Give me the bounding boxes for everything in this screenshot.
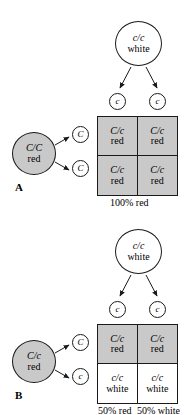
panel-a-top-gamete-left: c <box>109 93 126 110</box>
panel-b-cell-0: C/c red <box>98 325 138 364</box>
panel-a-cell-2-genotype: C/c <box>110 165 124 176</box>
panel-a-punnett-square: C/c red C/c red C/c red C/c red <box>97 116 178 196</box>
panel-b-left-parent-genotype: C/c <box>27 351 41 362</box>
panel-a-cell-3-phenotype: red <box>151 176 164 187</box>
panel-a: c/c white c c C/C red C C C/c red C/c re… <box>0 0 193 207</box>
panel-b-top-gamete-left: c <box>109 301 126 318</box>
panel-b-left-parent-circle: C/c red <box>12 340 56 383</box>
panel-b-left-gamete-upper-allele: C <box>77 338 83 347</box>
panel-a-left-gamete-lower-allele: C <box>77 164 83 173</box>
panel-a-left-parent-circle: C/C red <box>12 132 56 175</box>
panel-b-top-parent-phenotype: white <box>127 252 149 263</box>
panel-b-cell-2-phenotype: white <box>106 384 128 395</box>
panel-a-cell-0-phenotype: red <box>111 136 124 147</box>
panel-b-top-gamete-right-allele: c <box>156 305 160 314</box>
panel-a-left-gamete-upper-allele: C <box>77 130 83 139</box>
panel-b-left-gamete-upper: C <box>72 334 89 351</box>
panel-b-result-red: 50% red <box>98 405 132 415</box>
panel-a-top-parent-phenotype: white <box>127 44 149 55</box>
panel-a-result: 100% red <box>110 197 149 208</box>
panel-b: c/c white c c C/c red C c C/c red C/c re… <box>0 208 193 415</box>
panel-b-result-white: 50% white <box>137 405 180 415</box>
panel-b-top-gamete-right: c <box>149 301 166 318</box>
panel-a-left-gamete-lower: C <box>72 160 89 177</box>
panel-a-top-gamete-left-allele: c <box>116 97 120 106</box>
panel-b-letter: B <box>15 389 22 401</box>
panel-a-top-parent-circle: c/c white <box>115 21 162 66</box>
panel-b-cell-1: C/c red <box>138 325 178 364</box>
panel-b-cell-0-phenotype: red <box>111 344 124 355</box>
panel-b-punnett-square: C/c red C/c red c/c white c/c white <box>97 324 178 404</box>
panel-a-cell-2: C/c red <box>98 156 138 195</box>
panel-a-top-gamete-right-allele: c <box>156 97 160 106</box>
panel-b-cell-2-genotype: c/c <box>111 373 123 384</box>
panel-b-cell-1-phenotype: red <box>151 344 164 355</box>
panel-b-top-parent-genotype: c/c <box>133 241 145 252</box>
panel-b-cell-3: c/c white <box>138 364 178 403</box>
panel-b-top-parent-circle: c/c white <box>115 229 162 274</box>
panel-b-left-parent-phenotype: red <box>28 362 41 373</box>
panel-a-cell-1: C/c red <box>138 117 178 156</box>
panel-a-cell-1-phenotype: red <box>151 136 164 147</box>
panel-a-left-parent-phenotype: red <box>28 154 41 165</box>
panel-a-cell-0: C/c red <box>98 117 138 156</box>
panel-a-letter: A <box>15 181 23 193</box>
panel-a-top-parent-genotype: c/c <box>133 33 145 44</box>
panel-a-cell-2-phenotype: red <box>111 176 124 187</box>
panel-b-top-gamete-left-allele: c <box>116 305 120 314</box>
panel-b-cell-3-genotype: c/c <box>151 373 163 384</box>
panel-b-cell-2: c/c white <box>98 364 138 403</box>
panel-a-left-gamete-upper: C <box>72 126 89 143</box>
panel-b-left-gamete-lower-allele: c <box>79 372 83 381</box>
panel-a-cell-3: C/c red <box>138 156 178 195</box>
panel-a-left-parent-genotype: C/C <box>26 143 42 154</box>
panel-b-left-gamete-lower: c <box>72 368 89 385</box>
panel-a-top-gamete-right: c <box>149 93 166 110</box>
panel-b-cell-3-phenotype: white <box>146 384 168 395</box>
panel-a-cell-3-genotype: C/c <box>150 165 164 176</box>
